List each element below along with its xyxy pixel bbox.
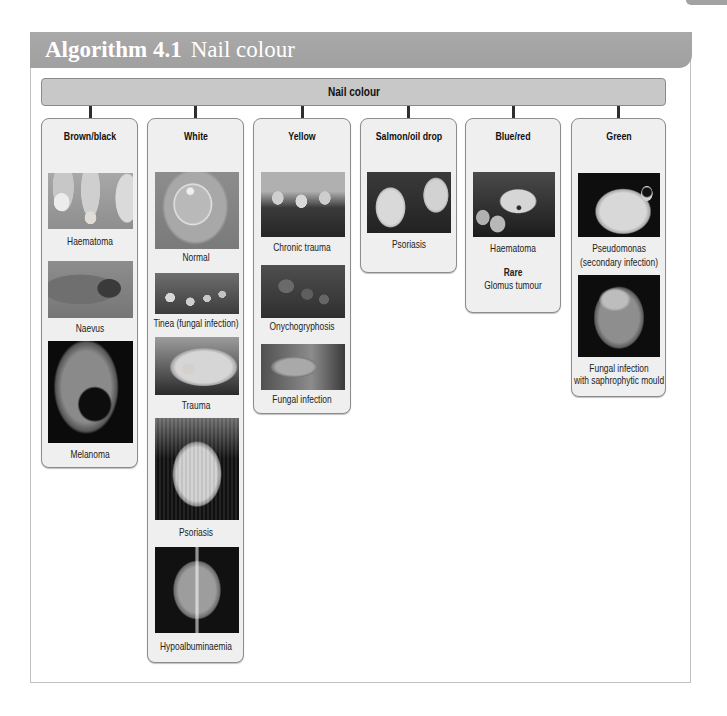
category-card-brown-black: Brown/black Haematoma Naevus Melanoma bbox=[41, 118, 138, 468]
caption-normal: Normal bbox=[182, 251, 209, 263]
connector-white bbox=[194, 106, 197, 118]
caption-psoriasis: Psoriasis bbox=[178, 526, 212, 538]
root-node-label: Nail colour bbox=[327, 86, 379, 99]
caption-hypoalbuminaemia: Hypoalbuminaemia bbox=[160, 640, 232, 652]
photo-melanoma bbox=[48, 341, 133, 443]
photo-onychogryphosis bbox=[261, 265, 345, 318]
category-card-salmon-oil-drop: Salmon/oil drop Psoriasis bbox=[360, 118, 457, 273]
photo-fungal-saphrophytic bbox=[578, 275, 660, 357]
caption-pseudomonas: Pseudomonas bbox=[592, 242, 646, 254]
category-title: Green bbox=[606, 130, 631, 142]
connector-blue-red bbox=[512, 106, 515, 118]
algorithm-header-banner: Algorithm 4.1Nail colour bbox=[30, 32, 692, 68]
connector-green bbox=[617, 106, 620, 118]
photo-fungal-infection bbox=[261, 344, 345, 390]
connector-salmon bbox=[407, 106, 410, 118]
photo-haematoma bbox=[48, 173, 133, 229]
photo-psoriasis bbox=[367, 172, 451, 233]
connector-brown-black bbox=[89, 106, 92, 118]
photo-naevus bbox=[48, 261, 133, 318]
caption-naevus: Naevus bbox=[75, 322, 103, 334]
photo-normal bbox=[155, 172, 239, 249]
category-title: Salmon/oil drop bbox=[375, 130, 442, 142]
page-corner-tab bbox=[686, 0, 727, 5]
caption-haematoma: Haematoma bbox=[490, 242, 536, 254]
caption-trauma: Trauma bbox=[181, 399, 210, 411]
category-card-green: Green Pseudomonas (secondary infection) … bbox=[571, 118, 666, 397]
photo-haematoma bbox=[473, 172, 555, 237]
category-card-yellow: Yellow Chronic trauma Onychogryphosis Fu… bbox=[253, 118, 351, 414]
caption-fungal-infection: Fungal infection bbox=[589, 362, 648, 374]
caption-pseudomonas-detail: (secondary infection) bbox=[580, 256, 658, 268]
photo-tinea bbox=[155, 273, 239, 314]
photo-trauma bbox=[155, 337, 239, 395]
algorithm-title: Algorithm 4.1Nail colour bbox=[45, 37, 295, 63]
photo-chronic-trauma bbox=[261, 172, 345, 237]
photo-psoriasis bbox=[155, 418, 239, 520]
caption-haematoma: Haematoma bbox=[67, 235, 113, 247]
photo-hypoalbuminaemia bbox=[155, 547, 239, 633]
caption-melanoma: Melanoma bbox=[70, 448, 109, 460]
caption-onychogryphosis: Onychogryphosis bbox=[270, 320, 335, 332]
algorithm-topic: Nail colour bbox=[191, 37, 295, 62]
caption-chronic-trauma: Chronic trauma bbox=[273, 241, 330, 253]
algorithm-number: Algorithm 4.1 bbox=[45, 37, 182, 62]
photo-pseudomonas bbox=[578, 173, 660, 237]
caption-psoriasis: Psoriasis bbox=[391, 238, 425, 250]
category-card-blue-red: Blue/red Haematoma Rare Glomus tumour bbox=[465, 118, 561, 313]
caption-glomus-tumour: Glomus tumour bbox=[484, 279, 541, 291]
caption-fungal-infection: Fungal infection bbox=[272, 393, 331, 405]
category-title: White bbox=[184, 130, 208, 142]
caption-fungal-infection-detail: with saphrophytic mould bbox=[573, 374, 663, 386]
category-title: Blue/red bbox=[495, 130, 530, 142]
connector-yellow bbox=[301, 106, 304, 118]
caption-tinea: Tinea (fungal infection) bbox=[153, 317, 238, 329]
rare-label: Rare bbox=[504, 266, 523, 278]
category-title: Yellow bbox=[288, 130, 315, 142]
category-card-white: White Normal Tinea (fungal infection) Tr… bbox=[147, 118, 244, 663]
category-title: Brown/black bbox=[63, 130, 115, 142]
root-node-nail-colour: Nail colour bbox=[41, 78, 666, 106]
